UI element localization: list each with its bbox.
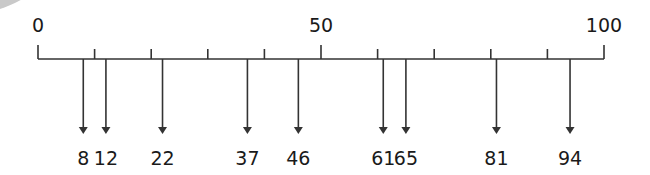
marked-value-label: 65 xyxy=(394,149,418,168)
axis-label: 0 xyxy=(32,16,44,35)
arrow-head-icon xyxy=(379,127,388,134)
arrow-head-icon xyxy=(492,127,501,134)
marked-value-label: 61 xyxy=(371,149,395,168)
marked-value-label: 12 xyxy=(94,149,118,168)
arrow-head-icon xyxy=(79,127,88,134)
marked-value-label: 8 xyxy=(77,149,89,168)
axis-label: 50 xyxy=(309,16,333,35)
axis-label: 100 xyxy=(586,16,622,35)
number-line-diagram: 05010081222374661658194 xyxy=(0,0,650,175)
arrow-head-icon xyxy=(294,127,303,134)
marked-value-label: 46 xyxy=(286,149,310,168)
arrow-head-icon xyxy=(401,127,410,134)
arrow-head-icon xyxy=(101,127,110,134)
arrow-head-icon xyxy=(158,127,167,134)
arrow-head-icon xyxy=(566,127,575,134)
marked-value-label: 37 xyxy=(235,149,259,168)
marked-value-label: 81 xyxy=(484,149,508,168)
marked-value-label: 22 xyxy=(150,149,174,168)
marked-value-label: 94 xyxy=(558,149,582,168)
arrow-head-icon xyxy=(243,127,252,134)
